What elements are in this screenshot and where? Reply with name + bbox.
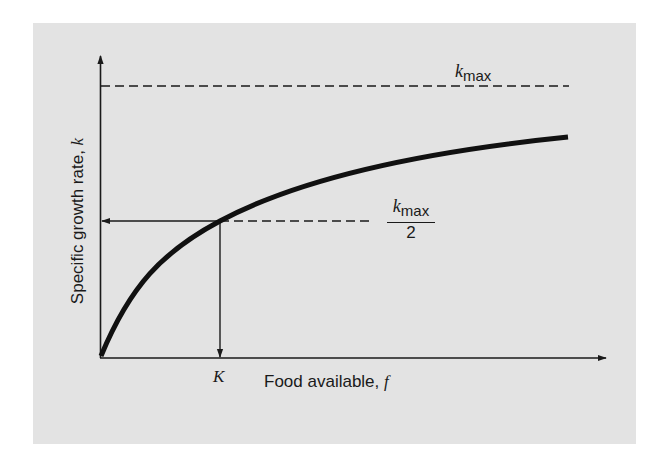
y-axis-label: Specific growth rate, k xyxy=(68,138,88,304)
half-kmax-denominator: 2 xyxy=(387,223,435,243)
half-kmax-label: kmax 2 xyxy=(387,196,435,243)
growth-curve xyxy=(101,137,568,356)
half-kmax-numerator: kmax xyxy=(387,196,435,223)
kmax-label: kmax xyxy=(455,61,491,84)
growth-curve-plot xyxy=(0,0,659,463)
x-axis-label: Food available, f xyxy=(264,372,389,392)
k-tick-label: K xyxy=(213,367,224,387)
